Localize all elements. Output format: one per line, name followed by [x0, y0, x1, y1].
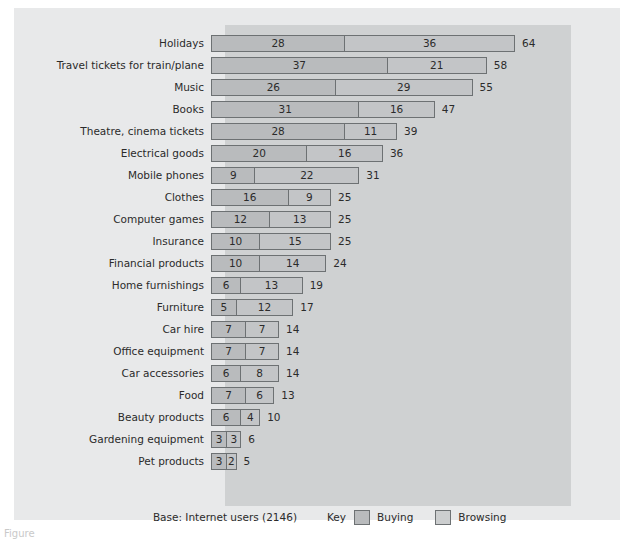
stacked-bar[interactable]: 512: [211, 299, 293, 316]
row-label: Furniture: [14, 302, 211, 313]
bar-segment-browsing: 22: [254, 168, 358, 183]
row-label: Car accessories: [14, 368, 211, 379]
row-total: 17: [293, 302, 313, 313]
row-total: 19: [303, 280, 323, 291]
bar-segment-browsing: 15: [259, 234, 330, 249]
chart-row: Furniture51217: [14, 296, 620, 318]
legend-item[interactable]: Buying: [354, 510, 413, 525]
chart-footer: Base: Internet users (2146) Key BuyingBr…: [14, 506, 620, 528]
chart-row: Home furnishings61319: [14, 274, 620, 296]
row-total: 5: [237, 456, 251, 467]
stacked-bar[interactable]: 2016: [211, 145, 383, 162]
chart-row: Mobile phones92231: [14, 164, 620, 186]
bar-segment-browsing: 2: [226, 454, 235, 469]
row-label: Gardening equipment: [14, 434, 211, 445]
row-bar-area: 201636: [211, 145, 403, 162]
chart-row: Travel tickets for train/plane372158: [14, 54, 620, 76]
legend-swatch-icon: [354, 510, 370, 525]
bar-segment-browsing: 6: [245, 388, 273, 403]
chart-rows: Holidays283664Travel tickets for train/p…: [14, 32, 620, 472]
row-bar-area: 325: [211, 453, 250, 470]
row-label: Holidays: [14, 38, 211, 49]
stacked-bar[interactable]: 2811: [211, 123, 397, 140]
bar-segment-buying: 3: [212, 454, 226, 469]
legend-items: BuyingBrowsing: [354, 510, 528, 525]
bar-segment-browsing: 16: [358, 102, 434, 117]
stacked-bar[interactable]: 3116: [211, 101, 435, 118]
row-bar-area: 101525: [211, 233, 351, 250]
row-total: 13: [274, 390, 294, 401]
row-total: 47: [435, 104, 455, 115]
bar-segment-browsing: 21: [387, 58, 486, 73]
bar-segment-browsing: 11: [344, 124, 396, 139]
chart-row: Music262955: [14, 76, 620, 98]
row-label: Travel tickets for train/plane: [14, 60, 211, 71]
bar-segment-buying: 6: [212, 366, 240, 381]
row-total: 58: [487, 60, 507, 71]
row-total: 55: [473, 82, 493, 93]
row-label: Books: [14, 104, 211, 115]
chart-figure: Holidays283664Travel tickets for train/p…: [0, 0, 629, 542]
legend-label: Browsing: [458, 511, 506, 523]
row-bar-area: 311647: [211, 101, 455, 118]
stacked-bar[interactable]: 64: [211, 409, 260, 426]
stacked-bar[interactable]: 32: [211, 453, 237, 470]
row-bar-area: 7613: [211, 387, 295, 404]
stacked-bar[interactable]: 1015: [211, 233, 331, 250]
stacked-bar[interactable]: 1014: [211, 255, 326, 272]
stacked-bar[interactable]: 77: [211, 321, 279, 338]
row-total: 14: [279, 368, 299, 379]
row-bar-area: 51217: [211, 299, 314, 316]
row-bar-area: 7714: [211, 343, 299, 360]
row-total: 6: [241, 434, 255, 445]
legend-item[interactable]: Browsing: [435, 510, 506, 525]
base-note: Base: Internet users (2146): [14, 511, 297, 523]
row-total: 25: [331, 214, 351, 225]
bar-segment-buying: 6: [212, 410, 240, 425]
stacked-bar[interactable]: 922: [211, 167, 359, 184]
bar-segment-browsing: 14: [259, 256, 325, 271]
row-total: 24: [326, 258, 346, 269]
row-label: Mobile phones: [14, 170, 211, 181]
legend-swatch-icon: [435, 510, 451, 525]
row-bar-area: 16925: [211, 189, 351, 206]
stacked-bar[interactable]: 2836: [211, 35, 515, 52]
stacked-bar[interactable]: 77: [211, 343, 279, 360]
row-bar-area: 372158: [211, 57, 507, 74]
bar-segment-buying: 3: [212, 432, 226, 447]
row-bar-area: 7714: [211, 321, 299, 338]
row-bar-area: 101424: [211, 255, 347, 272]
stacked-bar[interactable]: 68: [211, 365, 279, 382]
bar-segment-buying: 10: [212, 234, 259, 249]
row-bar-area: 281139: [211, 123, 417, 140]
bar-segment-buying: 7: [212, 388, 245, 403]
chart-row: Pet products325: [14, 450, 620, 472]
stacked-bar[interactable]: 3721: [211, 57, 487, 74]
stacked-bar[interactable]: 1213: [211, 211, 331, 228]
stacked-bar[interactable]: 33: [211, 431, 241, 448]
bar-segment-buying: 16: [212, 190, 288, 205]
stacked-bar[interactable]: 613: [211, 277, 303, 294]
bar-segment-browsing: 7: [245, 344, 278, 359]
legend-label: Buying: [377, 511, 413, 523]
chart-row: Car hire7714: [14, 318, 620, 340]
row-total: 25: [331, 192, 351, 203]
row-total: 10: [260, 412, 280, 423]
row-total: 31: [359, 170, 379, 181]
row-total: 14: [279, 324, 299, 335]
row-label: Computer games: [14, 214, 211, 225]
bar-segment-browsing: 36: [344, 36, 514, 51]
bar-segment-browsing: 9: [288, 190, 330, 205]
bar-segment-buying: 31: [212, 102, 358, 117]
stacked-bar[interactable]: 2629: [211, 79, 473, 96]
chart-row: Car accessories6814: [14, 362, 620, 384]
row-total: 36: [383, 148, 403, 159]
stacked-bar[interactable]: 76: [211, 387, 274, 404]
stacked-bar[interactable]: 169: [211, 189, 331, 206]
row-label: Electrical goods: [14, 148, 211, 159]
bar-segment-browsing: 29: [335, 80, 472, 95]
caption-text: Figure: [0, 528, 629, 539]
chart-row: Holidays283664: [14, 32, 620, 54]
bar-segment-buying: 26: [212, 80, 335, 95]
bar-segment-buying: 10: [212, 256, 259, 271]
